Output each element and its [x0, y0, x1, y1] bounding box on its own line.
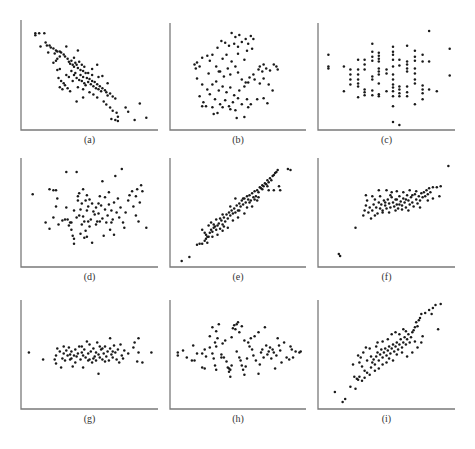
data-point [436, 186, 439, 189]
data-point [273, 351, 276, 354]
data-point [379, 353, 382, 356]
data-point [357, 82, 360, 85]
data-point [414, 78, 417, 81]
data-point [124, 106, 127, 109]
data-point [266, 102, 269, 105]
data-point [253, 335, 256, 338]
data-point [229, 375, 232, 378]
data-point [177, 351, 180, 354]
data-point [114, 175, 117, 178]
data-point [90, 218, 93, 221]
data-point [410, 336, 413, 339]
data-point [68, 346, 71, 349]
data-point [91, 202, 94, 205]
data-point [109, 337, 112, 340]
data-point [59, 350, 62, 353]
data-point [232, 327, 235, 330]
data-point [55, 59, 58, 62]
data-point [92, 93, 95, 96]
data-point [388, 211, 391, 214]
data-point [283, 341, 286, 344]
data-point [353, 375, 356, 378]
data-point [113, 233, 116, 236]
data-point [127, 352, 130, 355]
data-point [84, 356, 87, 359]
data-point [104, 360, 107, 363]
data-point [56, 50, 59, 53]
data-point [201, 366, 204, 369]
data-point [262, 97, 265, 100]
data-point [238, 356, 241, 359]
data-point [121, 168, 124, 171]
data-point [432, 307, 435, 310]
data-point [96, 341, 99, 344]
data-point [419, 199, 422, 202]
data-point [206, 235, 209, 238]
scatter-plot-f [318, 158, 455, 267]
data-point [109, 228, 112, 231]
data-point [437, 328, 440, 331]
data-point [392, 53, 395, 56]
data-point [371, 75, 374, 78]
data-point [105, 221, 108, 224]
data-point [428, 187, 431, 190]
data-point [394, 209, 397, 212]
data-point [415, 321, 418, 324]
data-point [110, 221, 113, 224]
data-point [411, 194, 414, 197]
data-point [53, 358, 56, 361]
data-point [101, 358, 104, 361]
data-point [211, 230, 214, 233]
data-point [77, 352, 80, 355]
scatter-panel-d [21, 158, 158, 267]
data-point [406, 95, 409, 98]
data-point [109, 106, 112, 109]
data-point [419, 317, 422, 320]
data-point [110, 353, 113, 356]
data-point [287, 168, 290, 171]
data-point [211, 352, 214, 355]
data-point [349, 78, 352, 81]
data-point [114, 351, 117, 354]
data-point [371, 51, 374, 54]
data-point [133, 119, 136, 122]
data-point [276, 169, 279, 172]
data-point [60, 80, 63, 83]
scatter-plot-i [318, 300, 455, 409]
data-point [209, 59, 212, 62]
data-point [376, 341, 379, 344]
data-point [133, 341, 136, 344]
data-point [266, 185, 269, 188]
data-point [378, 57, 381, 60]
data-point [387, 198, 390, 201]
data-point [378, 82, 381, 85]
data-point [92, 210, 95, 213]
data-point [106, 94, 109, 97]
data-point [79, 358, 82, 361]
data-point [428, 88, 431, 91]
data-point [372, 358, 375, 361]
data-point [407, 209, 410, 212]
data-point [358, 375, 361, 378]
data-point [253, 78, 256, 81]
data-point [86, 209, 89, 212]
data-point [378, 189, 381, 192]
data-point [88, 78, 91, 81]
data-point [251, 192, 254, 195]
data-point [401, 351, 404, 354]
data-point [108, 359, 111, 362]
data-point [38, 32, 41, 35]
data-point [384, 201, 387, 204]
data-point [145, 117, 148, 120]
data-point [357, 379, 360, 382]
data-point [371, 361, 374, 364]
data-point [252, 73, 255, 76]
data-point [110, 209, 113, 212]
data-point [55, 189, 58, 192]
data-point [405, 206, 408, 209]
data-point [78, 192, 81, 195]
data-point [349, 73, 352, 76]
data-point [201, 228, 204, 231]
data-point [250, 103, 253, 106]
data-point [62, 352, 64, 355]
